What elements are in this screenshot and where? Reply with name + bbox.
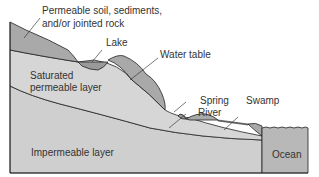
label-permeable-soil: Permeable soil, sediments, [42,5,162,16]
label-impermeable: Impermeable layer [31,147,114,158]
label-swamp: Swamp [246,95,280,106]
swamp [218,120,248,125]
groundwater-diagram: Permeable soil, sediments, and/or jointe… [0,0,319,177]
label-river: River [198,107,222,118]
label-saturated: Saturated [30,70,73,81]
label-spring: Spring [200,95,229,106]
label-permeable-soil-2: and/or jointed rock [42,18,125,29]
label-saturated-2: permeable layer [30,82,102,93]
label-lake: Lake [106,37,128,48]
label-ocean: Ocean [272,149,301,160]
label-water-table: Water table [160,49,211,60]
